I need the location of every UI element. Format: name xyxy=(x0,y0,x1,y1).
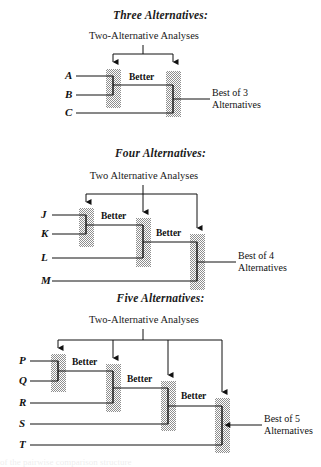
result-label-five: Best of 5 Alternatives xyxy=(264,413,313,436)
result-label-line1: Best of 5 xyxy=(264,413,313,425)
alternative-label-m: M xyxy=(41,274,51,286)
group-title-five: Five Alternatives: xyxy=(0,292,321,304)
result-label-line2: Alternatives xyxy=(264,425,313,437)
alternative-label-t: T xyxy=(19,438,26,450)
group-subtitle-five: Two-Alternative Analyses xyxy=(24,314,264,325)
alternative-label-p: P xyxy=(19,354,26,366)
group-title-four: Four Alternatives: xyxy=(0,147,321,159)
alternative-label-a: A xyxy=(65,69,72,81)
better-label: Better xyxy=(181,391,206,401)
alternative-label-b: B xyxy=(65,88,72,100)
group-subtitle-four: Two Alternative Analyses xyxy=(24,170,264,181)
better-label: Better xyxy=(127,374,152,384)
better-label: Better xyxy=(101,211,126,221)
result-label-four: Best of 4 Alternatives xyxy=(238,250,287,273)
alternative-label-r: R xyxy=(19,396,26,408)
group-title-three: Three Alternatives: xyxy=(0,9,321,21)
better-label: Better xyxy=(156,228,181,238)
page-footer-fragment: of the pairwise comparison structure xyxy=(0,457,321,467)
better-label: Better xyxy=(72,357,97,367)
alternative-label-l: L xyxy=(41,251,48,263)
result-label-line1: Best of 3 xyxy=(212,87,261,99)
figure-canvas: Three Alternatives: Two-Alternative Anal… xyxy=(0,0,321,467)
alternative-label-c: C xyxy=(65,106,72,118)
result-label-line2: Alternatives xyxy=(238,262,287,274)
group-subtitle-three: Two-Alternative Analyses xyxy=(24,30,264,41)
alternative-label-k: K xyxy=(41,227,48,239)
group-five-alternatives-graphics xyxy=(30,329,262,453)
result-label-three: Best of 3 Alternatives xyxy=(212,87,261,110)
alternative-label-q: Q xyxy=(19,374,27,386)
result-label-line2: Alternatives xyxy=(212,99,261,111)
alternative-label-s: S xyxy=(19,417,25,429)
analysis-fanout-1 xyxy=(113,45,173,62)
alternative-label-j: J xyxy=(41,208,47,220)
result-label-line1: Best of 4 xyxy=(238,250,287,262)
group-four-alternatives-graphics xyxy=(52,185,236,290)
better-label: Better xyxy=(129,72,154,82)
